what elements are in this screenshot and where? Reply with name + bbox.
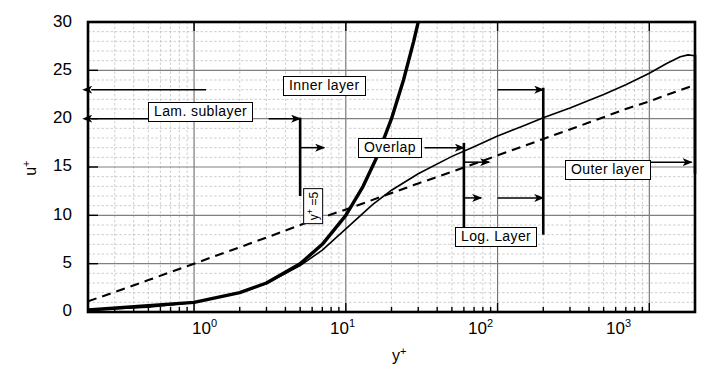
- x-tick-1e2-exp: 2: [487, 317, 493, 329]
- label-lam-sublayer: Lam. sublayer: [148, 102, 253, 122]
- x-tick-1e0-base: 10: [192, 319, 211, 338]
- x-axis-title: y+: [392, 345, 406, 365]
- label-inner-layer: Inner layer: [283, 76, 366, 96]
- x-tick-1e3-exp: 3: [625, 317, 631, 329]
- label-y-plus-5-rest: =5: [307, 192, 321, 209]
- x-axis-title-sup: +: [400, 345, 406, 357]
- y-axis-title-sup: +: [20, 160, 32, 166]
- x-tick-1e2: 102: [468, 317, 493, 339]
- y-tick-30: 30: [28, 12, 72, 32]
- x-tick-1e1: 101: [330, 317, 355, 339]
- x-tick-1e2-base: 10: [468, 319, 487, 338]
- label-outer-layer: Outer layer: [565, 160, 651, 180]
- chart-figure: 30 25 20 15 10 5 0 u+ 100 101 102 103 y+…: [0, 0, 726, 378]
- x-tick-1e0-exp: 0: [211, 317, 217, 329]
- y-tick-25: 25: [28, 60, 72, 80]
- x-tick-1e1-base: 10: [330, 319, 349, 338]
- x-tick-1e3-base: 10: [606, 319, 625, 338]
- x-axis-title-base: y: [392, 347, 400, 364]
- y-tick-20: 20: [28, 108, 72, 128]
- x-tick-1e0: 100: [192, 317, 217, 339]
- label-log-layer: Log. Layer: [455, 227, 537, 247]
- y-tick-0: 0: [28, 301, 72, 321]
- y-axis-title-base: u: [22, 167, 39, 176]
- x-tick-1e1-exp: 1: [349, 317, 355, 329]
- label-y-plus-5-sup: +: [305, 209, 315, 214]
- label-y-plus-5-base: y: [307, 214, 321, 220]
- y-tick-10: 10: [28, 205, 72, 225]
- label-overlap: Overlap: [358, 138, 422, 158]
- y-axis-title: u+: [20, 160, 40, 175]
- label-y-plus-5: y+ =5: [303, 188, 323, 224]
- y-tick-5: 5: [28, 253, 72, 273]
- x-tick-1e3: 103: [606, 317, 631, 339]
